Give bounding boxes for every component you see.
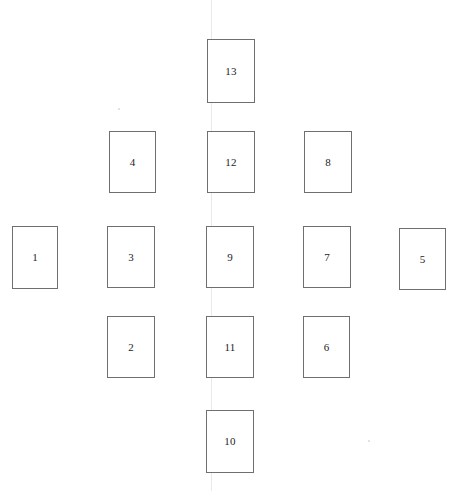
card-position-4[interactable]: 4 — [109, 131, 156, 193]
card-position-5[interactable]: 5 — [399, 228, 446, 290]
card-position-3[interactable]: 3 — [107, 226, 155, 288]
faint-speck-upper-left — [118, 108, 120, 110]
card-position-label: 3 — [128, 252, 134, 263]
card-position-label: 8 — [325, 157, 331, 168]
card-position-label: 13 — [225, 66, 236, 77]
card-position-label: 11 — [225, 342, 236, 353]
card-position-8[interactable]: 8 — [304, 131, 352, 193]
card-position-label: 6 — [324, 342, 330, 353]
card-position-9[interactable]: 9 — [206, 226, 254, 288]
card-position-label: 10 — [224, 436, 235, 447]
card-position-label: 12 — [225, 157, 236, 168]
faint-speck-lower-right — [368, 440, 370, 442]
card-position-7[interactable]: 7 — [303, 226, 351, 288]
card-position-11[interactable]: 11 — [206, 316, 254, 378]
card-position-2[interactable]: 2 — [107, 316, 155, 378]
card-position-label: 9 — [227, 252, 233, 263]
card-position-12[interactable]: 12 — [207, 131, 255, 193]
card-spread-canvas: 12345678910111213 — [0, 0, 456, 491]
card-position-10[interactable]: 10 — [206, 410, 254, 473]
card-position-1[interactable]: 1 — [12, 226, 58, 289]
card-position-13[interactable]: 13 — [207, 39, 255, 103]
card-position-label: 2 — [128, 342, 134, 353]
card-position-6[interactable]: 6 — [303, 316, 350, 378]
card-position-label: 5 — [420, 254, 426, 265]
card-position-label: 4 — [130, 157, 136, 168]
card-position-label: 7 — [324, 252, 330, 263]
card-position-label: 1 — [32, 252, 38, 263]
